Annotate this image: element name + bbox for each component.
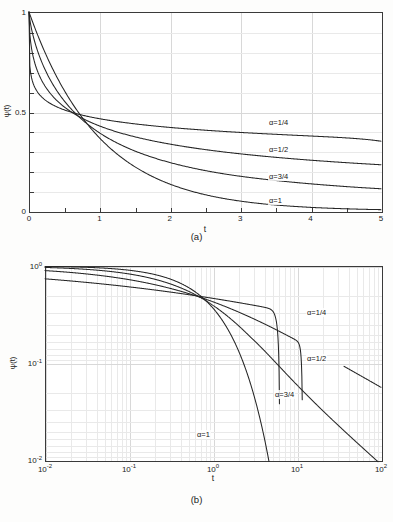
curve-label-a-2: α=3/4: [268, 172, 289, 181]
curve-label-b-2: α=3/4: [274, 390, 295, 399]
curve-b-alpha-0.5: [45, 271, 381, 400]
curve-b-alpha-1: [45, 266, 269, 461]
curve-label-a-0: α=1/4: [268, 118, 289, 127]
curves-a: [0, 0, 393, 260]
curve-label-b-0: α=1/4: [306, 308, 327, 317]
curve-a-alpha-1: [29, 12, 381, 210]
curve-a-alpha-0.5: [29, 12, 381, 165]
curve-b-alpha-0.25: [45, 279, 279, 404]
panel-a: 0 1 2 3 4 5 0 0.5 1 t ψ(t) α=1/4 α=1/2 α…: [0, 0, 393, 260]
curve-label-b-1: α=1/2: [306, 354, 327, 363]
curve-b-alpha-0.75: [45, 267, 378, 461]
caption-b: (b): [0, 494, 393, 505]
curves-b: [0, 260, 393, 522]
curve-label-b-3: α=1: [196, 430, 211, 439]
figure-container: 0 1 2 3 4 5 0 0.5 1 t ψ(t) α=1/4 α=1/2 α…: [0, 0, 393, 522]
curve-label-a-1: α=1/2: [268, 145, 289, 154]
curve-a-alpha-0.25: [29, 12, 381, 141]
curve-a-alpha-0.75: [29, 12, 381, 189]
caption-a: (a): [0, 231, 393, 242]
curve-label-a-3: α=1: [268, 196, 283, 205]
panel-b: 10-2 10-1 100 101 102 100 10-1 10-2 t ψ(…: [0, 260, 393, 522]
